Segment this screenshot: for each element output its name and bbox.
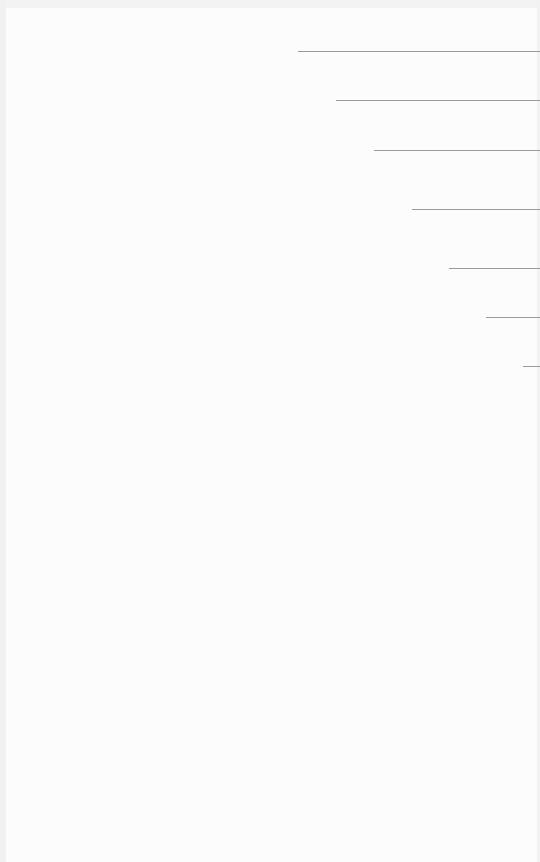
horizontal-line xyxy=(449,268,540,269)
horizontal-line xyxy=(374,150,540,151)
horizontal-line xyxy=(486,317,540,318)
blank-canvas xyxy=(0,0,540,862)
left-edge-shading xyxy=(0,0,6,862)
top-edge-shading xyxy=(0,0,540,8)
horizontal-line xyxy=(523,366,540,367)
horizontal-line xyxy=(412,209,540,210)
horizontal-line xyxy=(298,51,540,52)
horizontal-line xyxy=(336,100,540,101)
